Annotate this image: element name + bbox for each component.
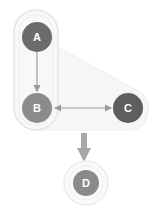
node-a[interactable]: A — [22, 22, 52, 52]
node-c[interactable]: C — [113, 93, 143, 123]
node-b-label: B — [33, 102, 41, 114]
node-c-label: C — [124, 102, 132, 114]
node-d[interactable]: D — [64, 161, 108, 205]
node-b[interactable]: B — [22, 93, 52, 123]
edge-group-d — [77, 133, 91, 162]
node-a-label: A — [33, 31, 41, 43]
node-d-label: D — [82, 177, 90, 189]
diagram-canvas: A B C D — [0, 0, 155, 219]
